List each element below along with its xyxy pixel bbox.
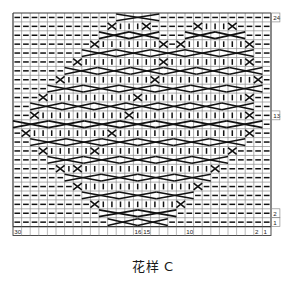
- column-tick-label: 10: [186, 228, 193, 235]
- column-tick-label: 30: [14, 228, 21, 235]
- row-tick-label: 24: [273, 14, 280, 21]
- chart-grid-svg: 3016151021241321: [0, 0, 306, 256]
- chart-caption: 花样 C: [0, 256, 306, 284]
- chart-grid-container: 3016151021241321: [0, 0, 306, 256]
- row-tick-label: 1: [273, 219, 277, 226]
- column-tick-label: 15: [143, 228, 150, 235]
- row-tick-label: 13: [273, 112, 280, 119]
- knitting-chart-figure: 3016151021241321 花样 C: [0, 0, 306, 284]
- column-tick-label: 16: [135, 228, 142, 235]
- row-tick-label: 2: [273, 210, 277, 217]
- column-tick-label: 2: [255, 228, 259, 235]
- column-tick-label: 1: [264, 228, 268, 235]
